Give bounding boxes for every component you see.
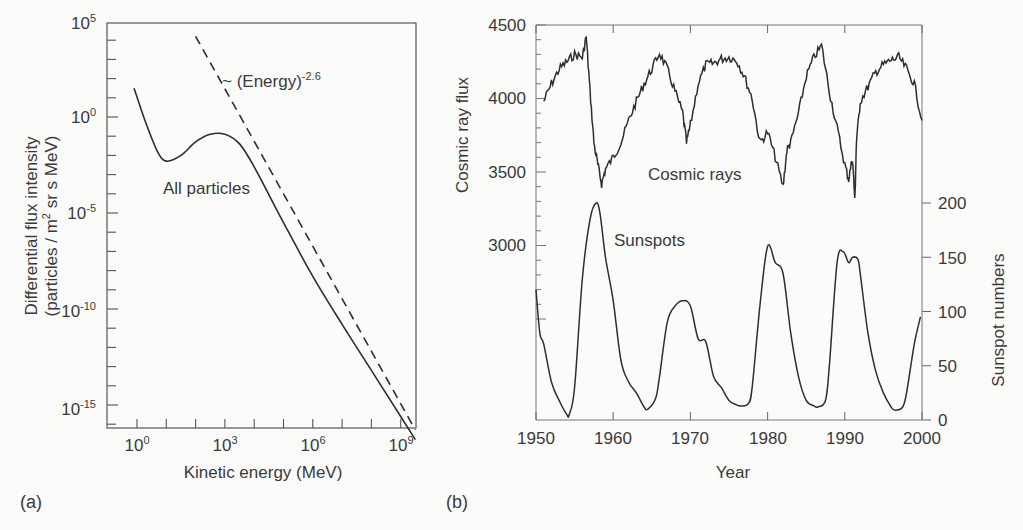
- panel-b-left-axis-title: Cosmic ray flux: [453, 76, 472, 193]
- panel-b-xtick-label: 1990: [826, 429, 864, 448]
- panel-a-xtick-label: 109: [388, 434, 413, 455]
- panel-a-ytick-label: 105: [71, 12, 96, 33]
- panel-b-left-tick-label: 4500: [488, 16, 526, 35]
- panel-a-xtick-label: 106: [300, 434, 325, 455]
- panel-a-x-axis-title: Kinetic energy (MeV): [184, 463, 343, 482]
- panel-b-xtick-label: 1970: [671, 429, 709, 448]
- panel-b-chart: 4500 4000 3500 3000 200 150 100 50 0 195…: [446, 16, 1008, 512]
- cosmic-rays-label: Cosmic rays: [648, 165, 742, 184]
- panel-a-ytick-label: 100: [71, 106, 96, 127]
- panel-a-y-axis-title-line1: Differential flux intensity: [22, 136, 41, 316]
- panel-a-xtick-label: 103: [212, 434, 237, 455]
- all-particles-curve: [134, 88, 415, 439]
- panel-a-ytick-label: 10-10: [61, 300, 96, 321]
- panel-b-ticks: [536, 25, 931, 420]
- sunspots-label: Sunspots: [614, 231, 685, 250]
- panel-b-right-tick-label: 150: [938, 249, 966, 268]
- panel-a-chart: 105 100 10-5 10-10 10-15 100 103 106 109…: [20, 12, 416, 512]
- figure: 105 100 10-5 10-10 10-15 100 103 106 109…: [0, 0, 1023, 530]
- panel-b-xtick-label: 2000: [903, 429, 941, 448]
- panel-b-xtick-label: 1960: [594, 429, 632, 448]
- panel-a-ytick-label: 10-15: [61, 398, 96, 419]
- panel-a-y-ticks: [107, 40, 118, 424]
- panel-a-y-axis-title: Differential flux intensity (particles /…: [22, 136, 61, 317]
- panel-a-ytick-label: 10-5: [67, 202, 96, 223]
- all-particles-label: All particles: [163, 179, 250, 198]
- panel-a-x-ticks: [137, 419, 401, 428]
- panel-a-y-axis-title-line2: (particles / m2 sr s MeV): [40, 136, 61, 317]
- panel-a-xtick-label: 100: [124, 434, 149, 455]
- panel-b-left-tick-label: 3000: [488, 236, 526, 255]
- sunspots-line: [536, 203, 920, 417]
- panel-b-right-tick-label: 100: [938, 303, 966, 322]
- panel-b-right-axis-title: Sunspot numbers: [989, 253, 1008, 386]
- panel-b-label: (b): [446, 492, 468, 512]
- panel-b-left-tick-label: 3500: [488, 163, 526, 182]
- panel-a-label: (a): [20, 492, 42, 512]
- panel-b-xtick-label: 1950: [517, 429, 555, 448]
- power-law-dashed-line: [196, 36, 416, 430]
- panel-b-xtick-label: 1980: [749, 429, 787, 448]
- power-law-annotation: ~ (Energy)-2.6: [222, 70, 321, 91]
- panel-b-right-tick-label: 50: [938, 357, 957, 376]
- panel-b-left-tick-label: 4000: [488, 89, 526, 108]
- panel-b-right-tick-label: 0: [938, 411, 947, 430]
- panel-b-x-axis-title: Year: [716, 463, 751, 482]
- panel-b-right-tick-label: 200: [938, 194, 966, 213]
